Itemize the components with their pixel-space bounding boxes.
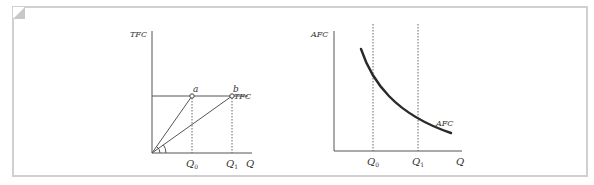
point-a — [190, 94, 194, 98]
point-b-label: b — [233, 84, 239, 94]
afc-x-axis-label: Q — [456, 156, 464, 167]
point-a-label: a — [193, 84, 198, 94]
economics-diagram: TFC TFC a b Q0 Q1 Q AFC AFC Q0 Q1 Q — [0, 0, 594, 185]
figure-frame: TFC TFC a b Q0 Q1 Q AFC AFC Q0 Q1 Q — [0, 0, 594, 185]
tfc-y-axis-label: TFC — [130, 30, 147, 39]
afc-curve-label: AFC — [435, 119, 453, 128]
tfc-x-axis-label: Q — [246, 158, 254, 169]
afc-y-axis-label: AFC — [310, 30, 328, 39]
frame-border — [13, 7, 587, 176]
